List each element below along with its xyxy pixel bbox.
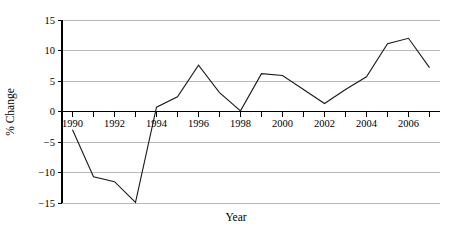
y-tick-label: 15 — [45, 15, 56, 26]
x-tick-label: 2006 — [398, 118, 419, 129]
x-axis-title: Year — [225, 211, 246, 223]
y-tick-label: 10 — [45, 45, 56, 56]
y-tick-label: −10 — [39, 167, 55, 178]
x-tick-label: 1994 — [146, 118, 168, 129]
y-axis-title: % Change — [4, 88, 17, 136]
x-tick-label: 2004 — [356, 118, 378, 129]
y-tick-label: 0 — [50, 106, 55, 117]
y-tick-label: −5 — [44, 137, 55, 148]
line-chart: 151050−5−10−15 1990199219941996199820002… — [0, 0, 452, 234]
axes — [62, 20, 440, 203]
y-tick-label: 5 — [50, 76, 55, 87]
x-tick-label: 1998 — [230, 118, 251, 129]
chart-canvas: 151050−5−10−15 1990199219941996199820002… — [0, 0, 452, 234]
x-tick-labels: 199019921994199619982000200220042006 — [62, 118, 419, 129]
x-tick-label: 1990 — [62, 118, 83, 129]
y-tick-labels: 151050−5−10−15 — [39, 15, 55, 209]
y-tick-label: −15 — [39, 198, 55, 209]
x-tick-label: 2000 — [272, 118, 293, 129]
x-tick-label: 1992 — [104, 118, 125, 129]
x-tick-label: 1996 — [188, 118, 209, 129]
x-tick-label: 2002 — [314, 118, 335, 129]
